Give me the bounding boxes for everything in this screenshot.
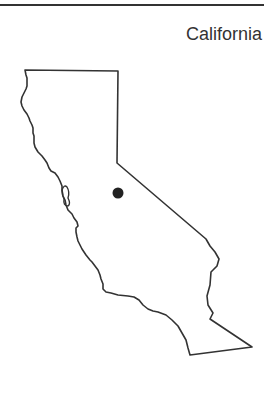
state-outline	[21, 70, 252, 355]
location-marker	[113, 188, 124, 199]
california-map	[0, 0, 274, 397]
